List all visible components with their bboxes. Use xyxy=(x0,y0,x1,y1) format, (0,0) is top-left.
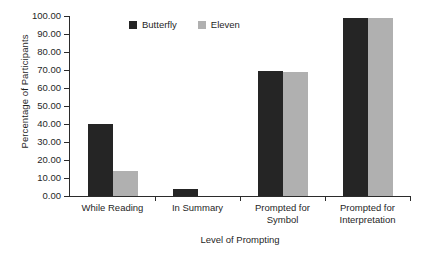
bar-group xyxy=(325,16,410,196)
y-tick-label: 10.00 xyxy=(37,172,61,183)
category-label-line: Symbol xyxy=(240,214,325,226)
category-label: Prompted forInterpretation xyxy=(325,202,410,226)
bar-eleven xyxy=(113,171,138,196)
y-tick-mark xyxy=(64,142,69,143)
y-tick-mark xyxy=(64,106,69,107)
y-tick-label: 90.00 xyxy=(37,28,61,39)
bar-group xyxy=(240,16,325,196)
y-tick-label: 0.00 xyxy=(43,190,62,201)
bar-eleven xyxy=(283,72,308,196)
category-label-line: Prompted for xyxy=(325,202,410,214)
legend-item-eleven: Eleven xyxy=(198,19,240,30)
y-tick-label: 70.00 xyxy=(37,64,61,75)
category-label-line: Interpretation xyxy=(325,214,410,226)
legend-label: Butterfly xyxy=(142,19,177,30)
y-tick-mark xyxy=(64,160,69,161)
gray-square-swatch xyxy=(198,21,206,29)
x-axis-title: Level of Prompting xyxy=(60,234,420,245)
y-tick-mark xyxy=(64,196,69,197)
bar-group xyxy=(70,16,155,196)
bar-chart-figure: Percentage of Participants 0.0010.0020.0… xyxy=(0,0,427,261)
y-tick-label: 100.00 xyxy=(32,10,61,21)
y-tick-mark xyxy=(64,88,69,89)
category-label: In Summary xyxy=(155,202,240,214)
chart-legend: ButterflyEleven xyxy=(129,19,240,30)
y-axis-title: Percentage of Participants xyxy=(19,12,30,172)
y-tick-mark xyxy=(64,178,69,179)
y-tick-mark xyxy=(64,34,69,35)
category-label: While Reading xyxy=(70,202,155,214)
bar-butterfly xyxy=(258,71,283,196)
y-tick-label: 50.00 xyxy=(37,100,61,111)
bar-butterfly xyxy=(343,18,368,196)
y-tick-label: 40.00 xyxy=(37,118,61,129)
x-axis-separator-tick xyxy=(325,196,326,201)
category-label: Prompted forSymbol xyxy=(240,202,325,226)
bar-group xyxy=(155,16,240,196)
legend-label: Eleven xyxy=(211,19,240,30)
y-tick-label: 20.00 xyxy=(37,154,61,165)
y-tick-mark xyxy=(64,16,69,17)
plot-area: 0.0010.0020.0030.0040.0050.0060.0070.008… xyxy=(69,16,410,196)
legend-item-butterfly: Butterfly xyxy=(129,19,177,30)
bar-butterfly xyxy=(173,189,198,196)
bar-groups xyxy=(70,16,410,196)
x-axis-separator-tick xyxy=(240,196,241,201)
y-tick-label: 80.00 xyxy=(37,46,61,57)
category-label-line: In Summary xyxy=(155,202,240,214)
y-tick-mark xyxy=(64,124,69,125)
x-axis-end-tick xyxy=(410,196,411,201)
y-tick-label: 30.00 xyxy=(37,136,61,147)
y-tick-mark xyxy=(64,52,69,53)
dark-square-swatch xyxy=(129,21,137,29)
category-label-line: Prompted for xyxy=(240,202,325,214)
category-label-line: While Reading xyxy=(70,202,155,214)
y-tick-label: 60.00 xyxy=(37,82,61,93)
bar-butterfly xyxy=(88,124,113,196)
y-tick-mark xyxy=(64,70,69,71)
x-axis-separator-tick xyxy=(155,196,156,201)
bar-eleven xyxy=(368,18,393,196)
